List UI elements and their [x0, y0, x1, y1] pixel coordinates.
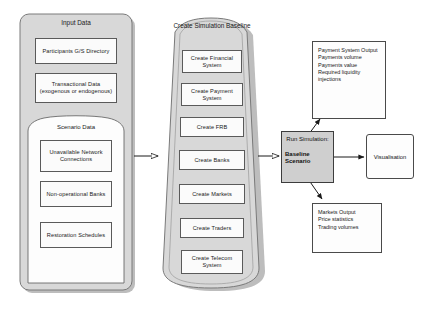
input-data-title: Input Data — [20, 19, 132, 27]
payment-output-line-volume: Payments volume — [318, 54, 381, 61]
payment-system-output-box[interactable]: Payment System Output Payments volume Pa… — [312, 41, 386, 119]
visualisation-box[interactable]: Visualisation — [366, 134, 414, 179]
baseline-scenario-label: Baseline Scenario — [285, 151, 330, 165]
input-item-transactional-data[interactable]: Transactional Data (exogenous or endogen… — [35, 73, 117, 103]
baseline-item-create-payment-system[interactable]: Create Payment System — [181, 83, 243, 106]
baseline-item-create-markets[interactable]: Create Markets — [179, 184, 245, 204]
baseline-item-create-financial-system[interactable]: Create Financial System — [182, 50, 242, 73]
payment-output-line-value: Payments value — [318, 62, 381, 69]
scenario-item-unavailable-network-connections[interactable]: Unavailable Network Connections — [40, 140, 112, 172]
run-simulation-box[interactable]: Run Simulation: Baseline Scenario — [281, 131, 334, 183]
scenario-item-restoration-schedules[interactable]: Restoration Schedules — [40, 222, 112, 248]
payment-output-line-injections: injections — [318, 76, 381, 83]
diagram-canvas: Input Data Participants G/S Directory Tr… — [0, 0, 430, 315]
markets-output-line-trading-volumes: Trading volumes — [318, 224, 377, 231]
input-item-participants-directory[interactable]: Participants G/S Directory — [35, 38, 117, 64]
baseline-item-create-banks[interactable]: Create Banks — [179, 150, 245, 170]
markets-output-title: Markets Output — [318, 209, 356, 215]
create-baseline-title: Create Simulation Baseline — [168, 22, 256, 30]
baseline-item-create-frb[interactable]: Create FRB — [180, 117, 244, 137]
markets-output-box[interactable]: Markets Output Price statistics Trading … — [312, 203, 382, 253]
scenario-item-non-operational-banks[interactable]: Non-operational Banks — [40, 181, 112, 207]
baseline-item-create-traders[interactable]: Create Traders — [180, 218, 244, 238]
markets-output-line-price-statistics: Price statistics — [318, 216, 377, 223]
baseline-item-create-telecom-system[interactable]: Create Telecom System — [181, 250, 243, 274]
run-simulation-label: Run Simulation: — [285, 136, 330, 144]
payment-output-line-liquidity: Required liquidity — [318, 69, 381, 76]
scenario-data-title: Scenario Data — [28, 124, 124, 130]
visualisation-label: Visualisation — [374, 154, 406, 160]
payment-output-title: Payment System Output — [318, 47, 378, 53]
